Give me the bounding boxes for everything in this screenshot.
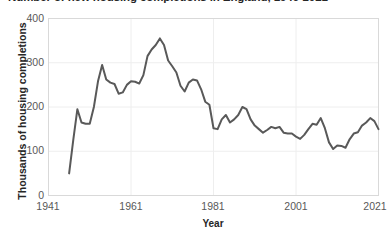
gridlines	[49, 19, 379, 196]
data-line-0	[69, 38, 378, 173]
data-series-group	[69, 38, 378, 173]
